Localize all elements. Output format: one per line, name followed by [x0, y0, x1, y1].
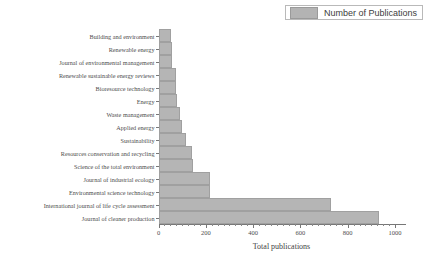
x-axis-minor-tick	[212, 224, 213, 226]
x-axis-minor-tick	[218, 224, 219, 226]
x-axis-minor-tick	[324, 224, 325, 226]
category-label: Science of the total environment	[74, 162, 154, 169]
y-axis-tick	[156, 140, 159, 141]
category-label: Applied energy	[116, 123, 154, 130]
bar-row: Journal of environmental management	[159, 55, 173, 68]
x-axis-minor-tick	[277, 224, 278, 226]
y-axis-tick	[156, 192, 159, 193]
x-axis-minor-tick	[342, 224, 343, 226]
x-axis-tick-label: 200	[201, 229, 211, 237]
bar-row: Science of the total environment	[159, 159, 193, 172]
bar	[159, 94, 178, 107]
x-axis-minor-tick	[289, 224, 290, 226]
x-axis-minor-tick	[265, 224, 266, 226]
bar-row: Sustainability	[159, 133, 187, 146]
x-axis-minor-tick	[194, 224, 195, 226]
bar-row: Applied energy	[159, 120, 182, 133]
x-axis-minor-tick	[389, 224, 390, 226]
x-axis-minor-tick	[283, 224, 284, 226]
x-axis-minor-tick	[383, 224, 384, 226]
plot-area: Building and environmentRenewable energy…	[159, 29, 405, 224]
x-axis-minor-tick	[365, 224, 366, 226]
bar-row: Building and environment	[159, 29, 172, 42]
bar-row: Energy	[159, 94, 178, 107]
x-axis-minor-tick	[271, 224, 272, 226]
bar	[159, 120, 182, 133]
x-axis-minor-tick	[318, 224, 319, 226]
x-axis-minor-tick	[360, 224, 361, 226]
y-axis-tick	[156, 179, 159, 180]
x-axis-minor-tick	[182, 224, 183, 226]
x-axis-major-tick	[300, 224, 301, 228]
bar-row: Renewable sustainable energy reviews	[159, 68, 176, 81]
x-axis-minor-tick	[377, 224, 378, 226]
category-label: Building and environment	[90, 32, 155, 39]
category-label: Renewable sustainable energy reviews	[59, 71, 155, 78]
legend-label: Number of Publications	[324, 8, 417, 18]
bar	[159, 159, 193, 172]
x-axis-minor-tick	[229, 224, 230, 226]
x-axis-minor-tick	[176, 224, 177, 226]
y-axis-tick	[156, 114, 159, 115]
x-axis-minor-tick	[336, 224, 337, 226]
bar-row: Journal of cleaner production	[159, 211, 380, 224]
bar-row: Bioresource technology	[159, 81, 177, 94]
category-label: Waste management	[106, 110, 154, 117]
bar	[159, 55, 173, 68]
y-axis-tick	[156, 127, 159, 128]
y-axis-tick	[156, 36, 159, 37]
category-label: Environmental science technology	[69, 188, 155, 195]
category-label: Bioresource technology	[96, 84, 155, 91]
y-axis-tick	[156, 153, 159, 154]
bar-row: Renewable energy	[159, 42, 172, 55]
x-axis-minor-tick	[259, 224, 260, 226]
bar	[159, 172, 210, 185]
bar	[159, 107, 180, 120]
bar-row: Resources conservation and recycling	[159, 146, 192, 159]
x-axis-minor-tick	[354, 224, 355, 226]
x-axis-minor-tick	[235, 224, 236, 226]
bar	[159, 198, 332, 211]
y-axis-tick	[156, 218, 159, 219]
bar	[159, 81, 177, 94]
x-axis-minor-tick	[330, 224, 331, 226]
x-axis-tick-label: 400	[248, 229, 258, 237]
category-label: Energy	[137, 97, 155, 104]
bar-row: Journal of industrial ecology	[159, 172, 210, 185]
bar	[159, 133, 187, 146]
x-axis-major-tick	[348, 224, 349, 228]
y-axis-tick	[156, 205, 159, 206]
x-axis-minor-tick	[224, 224, 225, 226]
bar	[159, 146, 192, 159]
legend-swatch-icon	[290, 7, 318, 19]
y-axis-tick	[156, 75, 159, 76]
bar-row: Waste management	[159, 107, 180, 120]
publications-bar-chart: Number of Publications Building and envi…	[0, 0, 427, 265]
y-axis-tick	[156, 49, 159, 50]
bar	[159, 29, 172, 42]
x-axis-tick-label: 0	[157, 229, 160, 237]
category-label: Resources conservation and recycling	[61, 149, 155, 156]
y-axis-tick	[156, 166, 159, 167]
x-axis-minor-tick	[164, 224, 165, 226]
x-axis-major-tick	[253, 224, 254, 228]
y-axis-tick	[156, 101, 159, 102]
x-axis-major-tick	[395, 224, 396, 228]
category-label: Sustainability	[120, 136, 154, 143]
category-label: Renewable energy	[109, 45, 155, 52]
x-axis-minor-tick	[371, 224, 372, 226]
category-label: Journal of cleaner production	[82, 214, 155, 221]
x-axis-tick-label: 600	[296, 229, 306, 237]
category-label: Journal of industrial ecology	[84, 175, 155, 182]
category-label: International journal of life cycle asse…	[44, 201, 155, 208]
x-axis-minor-tick	[170, 224, 171, 226]
x-axis-minor-tick	[312, 224, 313, 226]
bar	[159, 68, 176, 81]
bar	[159, 42, 172, 55]
chart-legend: Number of Publications	[285, 5, 423, 20]
x-axis-major-tick	[159, 224, 160, 228]
x-axis-minor-tick	[188, 224, 189, 226]
y-axis-tick	[156, 62, 159, 63]
y-axis-tick	[156, 88, 159, 89]
x-axis-title: Total publications	[158, 242, 405, 251]
